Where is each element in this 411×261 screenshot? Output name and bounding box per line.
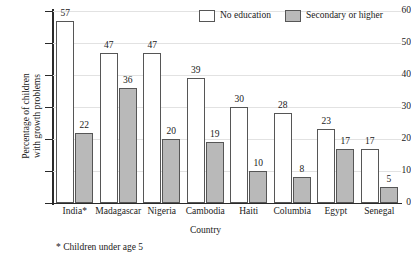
- legend-label-secondary-or-higher: Secondary or higher: [306, 11, 383, 21]
- chart-footnote: * Children under age 5: [56, 242, 143, 252]
- plot-area: 572247364720391930102882317175: [53, 11, 401, 203]
- y-axis-title-line-2: with growth problems: [32, 36, 43, 196]
- bar-madagascar-secondary-or-higher: [119, 88, 137, 203]
- bar-value-label: 47: [96, 41, 122, 51]
- y-axis-title-line-1: Percentage of children: [21, 36, 32, 196]
- legend-swatch-secondary-or-higher: [285, 10, 301, 22]
- legend-item-no-education: No education: [199, 10, 271, 22]
- y-axis-title: Percentage of children with growth probl…: [21, 36, 43, 196]
- bar-value-label: 36: [115, 76, 141, 86]
- legend: No education Secondary or higher: [199, 10, 383, 22]
- legend-swatch-no-education: [199, 10, 215, 22]
- bar-cambodia-no-education: [187, 78, 205, 203]
- bar-value-label: 47: [139, 41, 165, 51]
- y-tick-mark-30: [45, 107, 52, 108]
- bar-value-label: 39: [183, 66, 209, 76]
- legend-item-secondary-or-higher: Secondary or higher: [285, 10, 383, 22]
- bar-value-label: 22: [71, 121, 97, 131]
- bar-value-label: 17: [357, 137, 383, 147]
- bar-columbia-secondary-or-higher: [293, 177, 311, 203]
- bar-senegal-secondary-or-higher: [380, 187, 398, 203]
- bar-haiti-no-education: [230, 107, 248, 203]
- bar-value-label: 8: [289, 165, 315, 175]
- bar-egypt-secondary-or-higher: [336, 149, 354, 203]
- bar-value-label: 10: [245, 159, 271, 169]
- bar-value-label: 57: [52, 9, 78, 19]
- y-tick-mark-60: [45, 11, 52, 12]
- y-tick-mark-20: [45, 139, 52, 140]
- x-axis-title: Country: [0, 225, 411, 235]
- y-tick-mark-50: [45, 43, 52, 44]
- bar-value-label: 19: [202, 130, 228, 140]
- bar-value-label: 20: [158, 127, 184, 137]
- bar-value-label: 5: [376, 175, 402, 185]
- y-tick-mark-40: [45, 75, 52, 76]
- bar-chart: Percentage of children with growth probl…: [0, 0, 411, 261]
- bar-cambodia-secondary-or-higher: [206, 142, 224, 203]
- legend-label-no-education: No education: [220, 11, 271, 21]
- bar-value-label: 30: [226, 95, 252, 105]
- bar-india-no-education: [56, 21, 74, 203]
- bar-value-label: 23: [313, 117, 339, 127]
- bar-columbia-no-education: [274, 113, 292, 203]
- y-tick-mark-0: [45, 203, 52, 204]
- bar-nigeria-secondary-or-higher: [162, 139, 180, 203]
- bar-haiti-secondary-or-higher: [249, 171, 267, 203]
- bar-india-secondary-or-higher: [75, 133, 93, 203]
- y-tick-mark-10: [45, 171, 52, 172]
- x-category-label-senegal: Senegal: [352, 206, 408, 217]
- bar-value-label: 28: [270, 101, 296, 111]
- x-axis-line: [52, 203, 402, 204]
- bar-value-label: 17: [332, 137, 358, 147]
